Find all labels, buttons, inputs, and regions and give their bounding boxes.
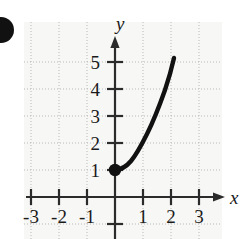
- graph-figure: y x 5 4 3 2 1 -3 -2 -1 1 2 3: [0, 0, 248, 239]
- y-tick-label-2: 2: [82, 134, 100, 153]
- y-tick-label-4: 4: [82, 80, 100, 99]
- endpoint-dot: [109, 164, 121, 176]
- y-tick-label-3: 3: [82, 107, 100, 126]
- x-tick-label-neg1: -1: [73, 207, 101, 226]
- y-axis-label: y: [116, 14, 124, 33]
- x-tick-label-pos3: 3: [185, 207, 213, 226]
- y-tick-label-1: 1: [82, 161, 100, 180]
- x-tick-label-pos1: 1: [129, 207, 157, 226]
- problem-number-bullet-icon: [0, 17, 14, 43]
- y-tick-label-5: 5: [82, 53, 100, 72]
- cartesian-plot: [0, 0, 248, 239]
- x-tick-label-pos2: 2: [157, 207, 185, 226]
- x-tick-label-neg2: -2: [45, 207, 73, 226]
- x-tick-label-neg3: -3: [17, 207, 45, 226]
- x-axis-label: x: [230, 188, 238, 207]
